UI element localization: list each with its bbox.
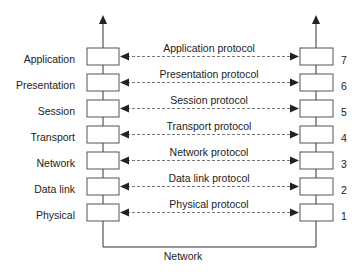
right-layer-box <box>300 204 333 221</box>
left-arrowhead-icon <box>120 79 129 87</box>
left-layer-box <box>87 178 119 195</box>
left-arrowhead-icon <box>120 53 129 61</box>
network-label: Network <box>164 250 203 262</box>
left-layer-box <box>87 126 119 143</box>
protocol-label: Session protocol <box>170 94 248 106</box>
protocol-label: Network protocol <box>170 146 249 158</box>
left-layer-box <box>87 74 119 91</box>
left-layer-box <box>87 100 119 117</box>
right-layer-box <box>300 48 333 65</box>
right-arrowhead-icon <box>290 183 299 191</box>
right-layer-box <box>300 100 333 117</box>
protocol-label: Physical protocol <box>169 198 248 210</box>
protocol-label: Application protocol <box>163 42 255 54</box>
right-arrowhead-icon <box>290 131 299 139</box>
layer-number: 7 <box>341 54 347 66</box>
left-up-arrow-icon <box>99 15 107 24</box>
layer-number: 6 <box>341 80 347 92</box>
right-layer-box <box>300 152 333 169</box>
layer-number: 4 <box>341 132 347 144</box>
layer-number: 3 <box>341 158 347 170</box>
right-layer-box <box>300 178 333 195</box>
right-up-arrow-icon <box>312 15 320 24</box>
right-arrowhead-icon <box>290 53 299 61</box>
layer-name: Network <box>36 157 75 169</box>
layer-name: Presentation <box>16 79 75 91</box>
left-arrowhead-icon <box>120 183 129 191</box>
right-arrowhead-icon <box>290 79 299 87</box>
osi-diagram: ApplicationApplication protocol7Presenta… <box>0 0 363 274</box>
left-arrowhead-icon <box>120 157 129 165</box>
protocol-label: Transport protocol <box>167 120 252 132</box>
protocol-label: Data link protocol <box>168 172 249 184</box>
layer-name: Transport <box>30 131 75 143</box>
protocol-label: Presentation protocol <box>159 68 258 80</box>
right-layer-box <box>300 74 333 91</box>
layer-name: Application <box>24 53 76 65</box>
layer-number: 2 <box>341 184 347 196</box>
left-layer-box <box>87 48 119 65</box>
layer-name: Data link <box>34 183 76 195</box>
left-layer-box <box>87 152 119 169</box>
right-arrowhead-icon <box>290 209 299 217</box>
layer-name: Physical <box>36 209 75 221</box>
left-arrowhead-icon <box>120 209 129 217</box>
left-arrowhead-icon <box>120 105 129 113</box>
right-arrowhead-icon <box>290 157 299 165</box>
layer-number: 1 <box>341 210 347 222</box>
layer-name: Session <box>38 105 76 117</box>
right-arrowhead-icon <box>290 105 299 113</box>
right-layer-box <box>300 126 333 143</box>
layer-number: 5 <box>341 106 347 118</box>
left-arrowhead-icon <box>120 131 129 139</box>
left-layer-box <box>87 204 119 221</box>
